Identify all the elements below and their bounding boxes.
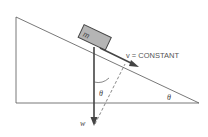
incline-diagram: m θ θ v = CONSTANT w: [0, 0, 208, 137]
weight-label: w: [80, 119, 86, 128]
velocity-label: v = CONSTANT: [126, 51, 179, 60]
velocity-arrowhead-icon: [129, 60, 139, 67]
incline-surface: [16, 17, 199, 103]
block-mass: m: [78, 25, 111, 50]
theta-label-incline: θ: [167, 93, 171, 102]
theta-label-weight: θ: [99, 89, 103, 98]
angle-arc-weight: [94, 78, 109, 82]
